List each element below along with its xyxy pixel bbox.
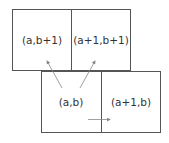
label-top-right: (a+1,b+1) <box>73 34 129 46</box>
diagram-svg: (a,b+1) (a+1,b+1) (a,b) (a+1,b) <box>0 0 169 143</box>
label-bottom-right: (a+1,b) <box>111 96 151 108</box>
grid-diagram: (a,b+1) (a+1,b+1) (a,b) (a+1,b) <box>0 0 169 143</box>
label-top-left: (a,b+1) <box>22 34 62 46</box>
label-bottom-left: (a,b) <box>59 96 84 108</box>
